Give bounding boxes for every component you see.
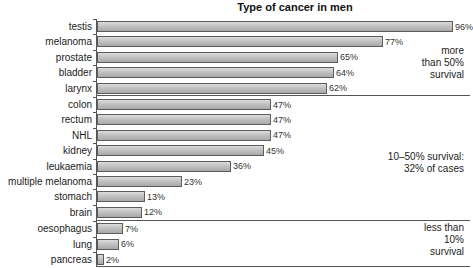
group-divider-10: [96, 220, 470, 221]
axis-tick: [93, 128, 96, 129]
value-label: 96%: [455, 21, 473, 33]
axis-tick: [93, 237, 96, 238]
annotation-line: 10–50% survival:: [388, 151, 464, 163]
bar-multiple-melanoma: [97, 176, 182, 187]
axis-tick: [93, 221, 96, 222]
bar-kidney: [97, 145, 264, 156]
value-label: 77%: [385, 36, 403, 48]
category-label: colon: [0, 99, 92, 111]
bar-pancreas: [97, 254, 104, 265]
category-label: pancreas: [0, 254, 92, 266]
annotation-line: survival: [424, 246, 464, 258]
axis-tick: [93, 143, 96, 144]
bar-oesophagus: [97, 223, 123, 234]
bar-lung: [97, 239, 119, 250]
value-label: 45%: [266, 145, 284, 157]
value-label: 7%: [125, 223, 138, 235]
category-label: brain: [0, 207, 92, 219]
chart-title: Type of cancer in men: [0, 1, 470, 13]
category-label: rectum: [0, 114, 92, 126]
category-label: testis: [0, 21, 92, 33]
category-label: bladder: [0, 67, 92, 79]
axis-tick: [93, 50, 96, 51]
annotation-more-than-50: more than 50% survival: [422, 45, 464, 81]
bar-larynx: [97, 83, 327, 94]
annotation-line: survival: [422, 69, 464, 81]
category-label: multiple melanoma: [0, 176, 92, 188]
axis-tick: [93, 159, 96, 160]
category-label: oesophagus: [0, 223, 92, 235]
value-label: 23%: [184, 176, 202, 188]
value-label: 13%: [147, 191, 165, 203]
category-label: lung: [0, 239, 92, 251]
bar-colon: [97, 99, 271, 110]
value-label: 47%: [273, 129, 291, 141]
value-label: 47%: [273, 114, 291, 126]
annotation-line: than 50%: [422, 57, 464, 69]
axis-tick: [93, 205, 96, 206]
axis-tick: [93, 252, 96, 253]
axis-tick: [93, 189, 96, 190]
axis-tick: [93, 112, 96, 113]
value-label: 2%: [106, 254, 119, 266]
bar-prostate: [97, 52, 338, 63]
x-axis: [96, 266, 470, 267]
bar-leukaemia: [97, 161, 231, 172]
annotation-10-50: 10–50% survival: 32% of cases: [388, 151, 464, 175]
axis-tick: [93, 174, 96, 175]
annotation-line: less than: [424, 222, 464, 234]
bar-rectum: [97, 114, 271, 125]
category-label: stomach: [0, 191, 92, 203]
axis-tick: [93, 81, 96, 82]
category-label: kidney: [0, 145, 92, 157]
group-divider-50: [96, 95, 470, 96]
axis-tick: [93, 19, 96, 20]
annotation-less-than-10: less than 10% survival: [424, 222, 464, 258]
value-label: 64%: [336, 67, 354, 79]
axis-tick: [93, 34, 96, 35]
category-label: NHL: [0, 130, 92, 142]
bar-stomach: [97, 191, 145, 202]
category-label: melanoma: [0, 36, 92, 48]
value-label: 6%: [121, 238, 134, 250]
category-label: prostate: [0, 52, 92, 64]
value-label: 36%: [233, 160, 251, 172]
value-label: 65%: [340, 51, 358, 63]
value-label: 47%: [273, 99, 291, 111]
annotation-line: 10%: [424, 234, 464, 246]
bar-bladder: [97, 67, 334, 78]
annotation-line: more: [422, 45, 464, 57]
annotation-line: 32% of cases: [388, 163, 464, 175]
axis-tick: [93, 65, 96, 66]
category-label: larynx: [0, 83, 92, 95]
bar-melanoma: [97, 36, 383, 47]
value-label: 12%: [144, 206, 162, 218]
category-label: leukaemia: [0, 161, 92, 173]
bar-brain: [97, 207, 142, 218]
axis-tick: [93, 97, 96, 98]
value-label: 62%: [329, 82, 347, 94]
bar-nhl: [97, 130, 271, 141]
bar-testis: [97, 21, 453, 32]
